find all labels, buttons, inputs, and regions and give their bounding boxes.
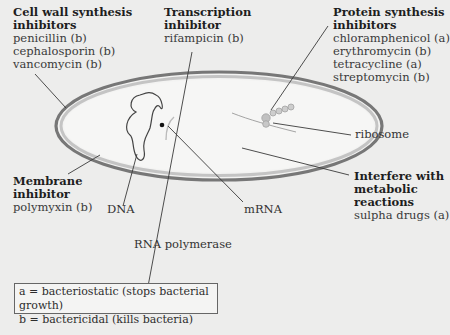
metabolic-interference-label: Interfere with metabolic reactions sulph… (354, 170, 449, 222)
legend-box: a = bacteriostatic (stops bacterial grow… (14, 283, 218, 314)
bacterial-cell (56, 72, 382, 180)
dna-label: DNA (107, 203, 135, 216)
transcription-inhibitor-label: Transcription inhibitor rifampicin (b) (164, 6, 251, 45)
ribosome-label: ribosome (355, 128, 409, 141)
cell-wall-inhibitors-label: Cell wall synthesis inhibitors penicilli… (13, 6, 132, 71)
drug-sulpha: sulpha drugs (a) (354, 209, 449, 222)
rna-polymerase-icon (160, 123, 165, 128)
mrna-label: mRNA (244, 203, 282, 216)
drug-vancomycin: vancomycin (b) (13, 58, 132, 71)
rna-polymerase-label: RNA polymerase (134, 238, 232, 251)
protein-synthesis-inhibitors-label: Protein synthesis inhibitors chloramphen… (333, 6, 450, 84)
leader-cell-wall (35, 74, 66, 108)
legend-bacteriostatic: a = bacteriostatic (stops bacterial grow… (19, 285, 217, 313)
legend-bactericidal: b = bactericidal (kills bacteria) (19, 313, 217, 327)
cytoplasm (64, 80, 374, 173)
membrane-inhibitor-label: Membrane inhibitor polymyxin (b) (13, 175, 92, 214)
drug-polymyxin: polymyxin (b) (13, 201, 92, 214)
drug-streptomycin: streptomycin (b) (333, 71, 450, 84)
drug-rifampicin: rifampicin (b) (164, 32, 251, 45)
